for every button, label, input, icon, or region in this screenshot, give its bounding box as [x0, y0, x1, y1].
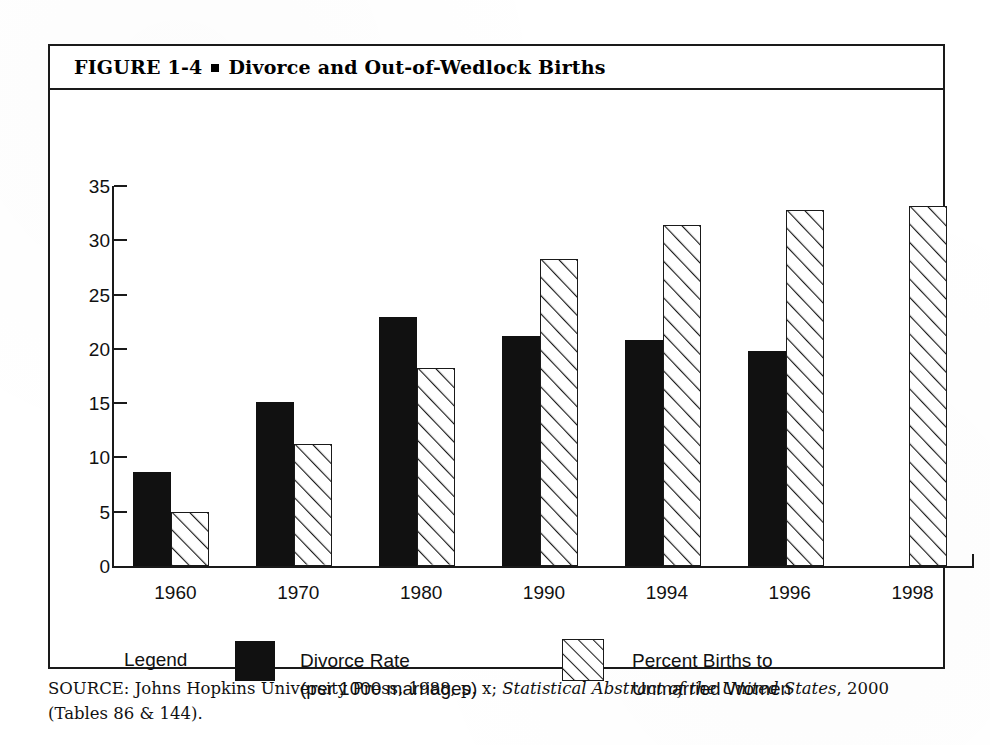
- x-axis-tick-label: 1960: [154, 582, 196, 604]
- bar-group: [605, 90, 728, 566]
- y-axis-tick-label: 35: [89, 177, 110, 196]
- figure-title-bar: FIGURE 1-4Divorce and Out-of-Wedlock Bir…: [50, 46, 943, 90]
- y-axis-tick-mark: [114, 402, 127, 404]
- y-axis-tick-label: 15: [89, 394, 110, 413]
- legend-entry-line-1: Divorce Rate: [300, 647, 477, 675]
- bar-unmarried-births: [540, 259, 578, 566]
- source-prefix: SOURCE: Johns Hopkins University Press, …: [48, 679, 502, 698]
- figure-number: FIGURE 1-4: [74, 56, 202, 78]
- legend-solid-swatch-icon: [235, 641, 275, 681]
- x-axis-tick-label: 1970: [277, 582, 319, 604]
- x-axis-tick-label: 1994: [646, 582, 688, 604]
- bar-divorce-rate: [379, 317, 417, 566]
- bar-divorce-rate: [256, 402, 294, 566]
- y-axis-tick-label: 20: [89, 339, 110, 358]
- bar-divorce-rate: [748, 351, 786, 566]
- x-axis-tick-label: 1996: [769, 582, 811, 604]
- bar-divorce-rate: [502, 336, 540, 566]
- y-axis-tick-label: 5: [99, 502, 110, 521]
- y-axis-tick-mark: [114, 239, 127, 241]
- x-axis-tick-labels: 1960197019801990199419961998: [114, 582, 974, 612]
- x-axis-line: [112, 566, 974, 568]
- bar-group: [360, 90, 483, 566]
- bar-groups: [114, 90, 974, 566]
- bar-group: [237, 90, 360, 566]
- bar-divorce-rate: [133, 472, 171, 566]
- bar-unmarried-births: [786, 210, 824, 566]
- bar-group: [483, 90, 606, 566]
- y-axis-tick-mark: [114, 294, 127, 296]
- y-axis-tick-label: 10: [89, 448, 110, 467]
- x-axis-tick-label: 1980: [400, 582, 442, 604]
- y-axis-tick-mark: [114, 185, 127, 187]
- bar-unmarried-births: [909, 206, 947, 566]
- x-axis-tick-label: 1990: [523, 582, 565, 604]
- y-axis-tick-label: 0: [99, 557, 110, 576]
- bar-divorce-rate: [625, 340, 663, 566]
- page-title: FIGURE 1-4Divorce and Out-of-Wedlock Bir…: [50, 56, 606, 78]
- figure-title-text: Divorce and Out-of-Wedlock Births: [228, 56, 605, 78]
- bar-unmarried-births: [417, 368, 455, 566]
- y-axis-tick-labels: 05101520253035: [64, 90, 110, 671]
- bar-unmarried-births: [294, 444, 332, 566]
- x-axis-tick-label: 1998: [891, 582, 933, 604]
- square-bullet-icon: [211, 64, 219, 72]
- y-axis-tick-mark: [114, 456, 127, 458]
- y-axis-tick-mark: [114, 348, 127, 350]
- source-note: SOURCE: Johns Hopkins University Press, …: [48, 676, 948, 726]
- y-axis-tick-mark: [114, 511, 127, 513]
- x-axis-end-cap: [972, 554, 974, 566]
- source-italic-title: Statistical Abstract of the United State…: [502, 679, 836, 698]
- bar-group: [114, 90, 237, 566]
- legend-title: Legend: [124, 649, 187, 671]
- bar-unmarried-births: [663, 225, 701, 566]
- y-axis-tick-label: 30: [89, 231, 110, 250]
- legend-hatch-swatch-icon: [562, 639, 604, 681]
- y-axis-tick-label: 25: [89, 285, 110, 304]
- bar-unmarried-births: [171, 512, 209, 566]
- figure-frame: FIGURE 1-4Divorce and Out-of-Wedlock Bir…: [48, 44, 945, 669]
- chart-plot-area: 05101520253035 1960197019801990199419961…: [50, 90, 943, 671]
- bar-group: [728, 90, 851, 566]
- bar-group: [851, 90, 974, 566]
- legend-entry-line-1: Percent Births to: [632, 647, 791, 675]
